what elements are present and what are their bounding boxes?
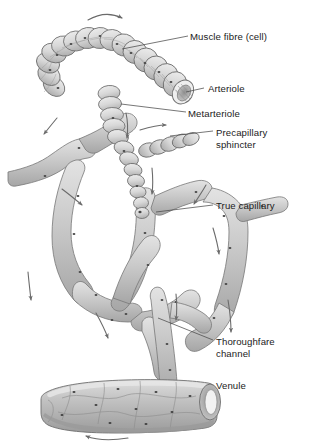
capillary-segment — [151, 180, 212, 215]
leader-metarteriole — [121, 104, 186, 112]
arrow-inflow-top — [88, 14, 122, 20]
arrow-sphincter-right — [140, 125, 166, 130]
capillary-segment — [52, 160, 93, 305]
arrow-venule-outflow — [86, 436, 128, 440]
label-true-capillary: True capillary — [216, 200, 275, 211]
microcirculation-diagram — [0, 0, 329, 445]
label-thoroughfare-channel-line1: Thoroughfare — [216, 336, 275, 347]
label-precapillary-sphincter-line2: sphincter — [216, 139, 256, 150]
label-muscle-fibre: Muscle fibre (cell) — [190, 31, 267, 42]
label-arteriole: Arteriole — [208, 83, 245, 94]
arrow-right-descend — [213, 228, 219, 254]
label-venule: Venule — [216, 380, 246, 391]
label-precapillary-sphincter-line1: Precapillary — [216, 127, 267, 138]
venule — [41, 380, 221, 434]
arrow-network-mid — [152, 168, 153, 194]
figure-canvas: Muscle fibre (cell) Arteriole Metarterio… — [0, 0, 329, 445]
arrow-branch-left-upper — [44, 118, 57, 134]
label-thoroughfare-channel-line2: channel — [216, 348, 250, 359]
label-metarteriole: Metarteriole — [188, 108, 240, 119]
arrow-capillary-left — [28, 272, 31, 300]
